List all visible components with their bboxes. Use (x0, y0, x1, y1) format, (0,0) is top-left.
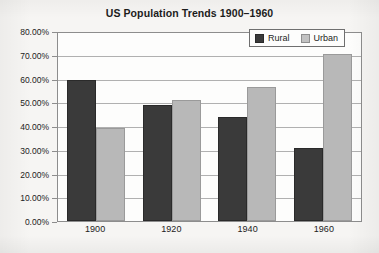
legend-label: Urban (314, 33, 339, 43)
bar-rural-1960 (294, 148, 323, 221)
x-axis: 1900192019401960 (57, 224, 362, 240)
legend-swatch-icon (255, 34, 264, 43)
bar-urban-1940 (247, 87, 276, 221)
y-tick-label: 20.00% (20, 170, 49, 180)
bars-layer (58, 33, 361, 221)
bar-urban-1920 (172, 100, 201, 221)
y-tick-label: 70.00% (20, 51, 49, 61)
bar-rural-1920 (143, 105, 172, 221)
bar-rural-1940 (218, 117, 247, 221)
chart-figure: US Population Trends 1900–1960 0.00%10.0… (0, 0, 379, 253)
y-tick-label: 10.00% (20, 193, 49, 203)
x-tick-label: 1900 (57, 224, 133, 240)
legend-swatch-icon (301, 34, 310, 43)
legend-entry-rural: Rural (255, 33, 290, 43)
y-tick-label: 40.00% (20, 122, 49, 132)
x-tick-label: 1960 (286, 224, 362, 240)
y-tick-label: 30.00% (20, 146, 49, 156)
bar-group (210, 33, 286, 221)
y-tick-label: 0.00% (25, 217, 49, 227)
bar-group (285, 33, 361, 221)
bar-group (134, 33, 210, 221)
bar-rural-1900 (67, 80, 96, 221)
y-axis: 0.00%10.00%20.00%30.00%40.00%50.00%60.00… (0, 32, 53, 222)
y-tick-label: 60.00% (20, 75, 49, 85)
legend-entry-urban: Urban (301, 33, 339, 43)
chart-legend: RuralUrban (249, 29, 345, 47)
x-tick-label: 1920 (133, 224, 209, 240)
y-tick-label: 50.00% (20, 98, 49, 108)
y-tick-mark (52, 222, 57, 223)
chart-title: US Population Trends 1900–1960 (0, 7, 379, 19)
x-tick-label: 1940 (210, 224, 286, 240)
bar-urban-1900 (96, 128, 125, 221)
bar-urban-1960 (323, 54, 352, 221)
legend-label: Rural (268, 33, 290, 43)
bar-group (58, 33, 134, 221)
y-tick-label: 80.00% (20, 27, 49, 37)
